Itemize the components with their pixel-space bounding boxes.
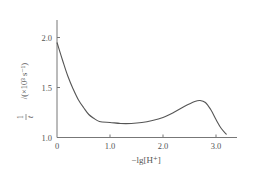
y-axis-label: /(×10³ s⁻¹) 1 t xyxy=(16,63,35,120)
x-axis-label: −lg[H⁺] xyxy=(131,155,160,165)
axes xyxy=(57,20,237,138)
y-tick-label: 1.0 xyxy=(41,133,52,143)
y-axis-label-numerator: 1 xyxy=(16,115,25,119)
x-tick-label: 1.0 xyxy=(105,141,116,151)
data-line xyxy=(57,43,227,135)
x-tick-label: 3.0 xyxy=(211,141,222,151)
y-tick-label: 2.0 xyxy=(41,33,52,43)
x-tick-label: 2.0 xyxy=(158,141,169,151)
chart: 1.01.52.0 01.02.03.0 −lg[H⁺] /(×10³ s⁻¹)… xyxy=(0,0,260,174)
y-axis-label-denominator: t xyxy=(26,115,35,118)
x-tick-label: 0 xyxy=(55,141,59,151)
y-tick-label: 1.5 xyxy=(41,83,52,93)
y-axis-label-unit: /(×10³ s⁻¹) xyxy=(19,63,29,100)
x-ticks: 01.02.03.0 xyxy=(55,135,221,151)
